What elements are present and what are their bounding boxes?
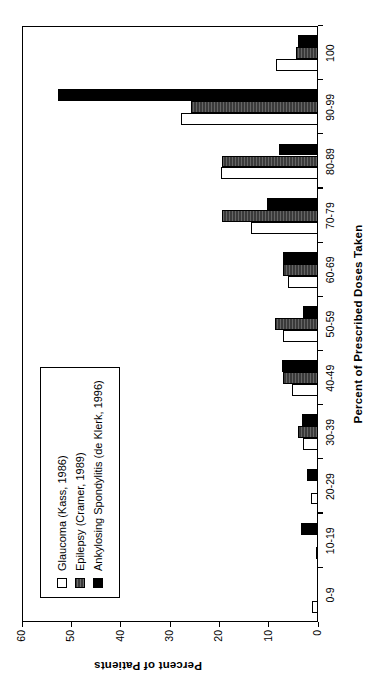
y-tick-label: 40	[114, 630, 126, 642]
bar	[283, 252, 318, 264]
x-tick-label: 0-9	[324, 568, 336, 622]
x-tick-mark	[318, 133, 323, 134]
bar-chart-figure: 0102030405060 Percent of Patients 0-910-…	[0, 0, 390, 684]
x-tick-label: 40-49	[324, 351, 336, 405]
y-tick-mark	[219, 622, 220, 627]
bar	[307, 469, 318, 481]
bar	[296, 47, 318, 59]
legend-item-label: Epilepsy (Cramer, 1989)	[74, 452, 86, 571]
x-tick-mark	[318, 404, 323, 405]
legend-item: Glaucoma (Kass, 1986)	[56, 380, 68, 588]
x-tick-mark	[318, 25, 323, 26]
bar	[292, 384, 318, 396]
x-tick-label: 90-99	[324, 80, 336, 134]
x-tick-label: 10-19	[324, 514, 336, 568]
legend-item: Ankylosing Spondylitis (de Klerk, 1996)	[92, 380, 104, 588]
bar	[302, 415, 318, 427]
legend: Glaucoma (Kass, 1986)Epilepsy (Cramer, 1…	[40, 367, 120, 598]
y-tick-label: 10	[262, 630, 274, 642]
legend-item-label: Glaucoma (Kass, 1986)	[56, 455, 68, 571]
bar	[279, 144, 318, 156]
x-tick-mark	[318, 242, 323, 243]
bar	[58, 89, 318, 101]
bar	[222, 156, 318, 168]
y-tick-label: 30	[163, 630, 175, 642]
bar	[303, 306, 318, 318]
x-tick-label: 60-69	[324, 243, 336, 297]
x-tick-label: 80-89	[324, 134, 336, 188]
y-tick-mark	[268, 622, 269, 627]
x-tick-mark	[318, 296, 323, 297]
bar	[283, 372, 318, 384]
bar	[288, 276, 318, 288]
bar	[316, 547, 318, 559]
bar	[311, 493, 318, 505]
bar	[276, 59, 318, 71]
x-tick-mark	[318, 512, 323, 513]
y-tick-mark	[22, 622, 23, 627]
bar	[181, 113, 318, 125]
bar	[282, 360, 318, 372]
bar	[298, 426, 318, 438]
x-tick-mark	[318, 458, 323, 459]
x-tick-mark	[318, 187, 323, 188]
chart-rotator: 0102030405060 Percent of Patients 0-910-…	[0, 0, 390, 684]
bar	[312, 601, 318, 613]
bar	[301, 523, 318, 535]
y-tick-mark	[170, 622, 171, 627]
x-tick-label: 50-59	[324, 297, 336, 351]
x-tick-mark	[318, 79, 323, 80]
legend-swatch-icon	[57, 578, 67, 588]
bar	[267, 198, 318, 210]
y-tick-label: 50	[64, 630, 76, 642]
bar	[275, 318, 318, 330]
x-tick-mark	[318, 567, 323, 568]
bar	[303, 438, 318, 450]
bar	[191, 101, 318, 113]
chart-viewport: 0102030405060 Percent of Patients 0-910-…	[0, 0, 390, 684]
y-tick-mark	[120, 622, 121, 627]
legend-swatch-icon	[93, 578, 103, 588]
x-tick-label: 70-79	[324, 189, 336, 243]
y-axis-title: Percent of Patients	[0, 656, 296, 672]
x-tick-label: 20-29	[324, 459, 336, 513]
bar	[283, 330, 318, 342]
bar	[283, 264, 318, 276]
legend-item: Epilepsy (Cramer, 1989)	[74, 380, 86, 588]
bar	[298, 35, 318, 47]
y-tick-label: 0	[311, 630, 323, 636]
x-tick-label: 100	[324, 26, 336, 80]
bar	[221, 167, 318, 179]
legend-swatch-icon	[75, 578, 85, 588]
y-tick-label: 60	[15, 630, 27, 642]
bar	[222, 210, 318, 222]
x-tick-mark	[318, 350, 323, 351]
bar	[251, 222, 318, 234]
x-axis-title: Percent of Prescribed Doses Taken	[352, 26, 364, 622]
y-tick-mark	[318, 622, 319, 627]
y-tick-label: 20	[212, 630, 224, 642]
y-tick-mark	[71, 622, 72, 627]
x-tick-label: 30-39	[324, 405, 336, 459]
legend-item-label: Ankylosing Spondylitis (de Klerk, 1996)	[92, 380, 104, 571]
